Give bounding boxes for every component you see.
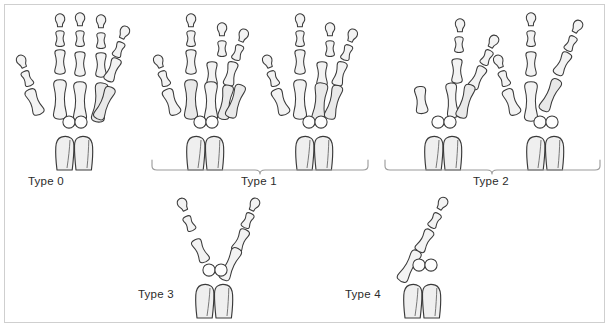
label-type-4: Type 4	[345, 288, 381, 300]
carpal-ossicles	[203, 264, 227, 276]
forearm-radius-ulna	[527, 136, 564, 170]
hand-type-2-b	[492, 13, 585, 170]
hand-type-4	[396, 195, 450, 318]
forearm-radius-ulna	[56, 136, 93, 170]
forearm-radius-ulna	[196, 284, 233, 318]
forearm-radius-ulna	[187, 136, 224, 170]
ray-middle	[73, 13, 86, 121]
ray-thumb	[261, 54, 291, 117]
label-type-3: Type 3	[138, 288, 174, 300]
ray-index	[293, 14, 306, 119]
carpal-ossicles	[432, 116, 456, 128]
hand-type-2-a	[414, 19, 501, 170]
carpal-ossicles	[413, 259, 437, 271]
ray-lateral	[492, 54, 522, 117]
ray-index	[53, 14, 66, 119]
ray-left-oblique	[176, 197, 211, 265]
ray-index	[184, 14, 197, 119]
ray-lateral	[414, 86, 428, 114]
ray-thumb	[15, 54, 45, 117]
hand-type-1-a	[152, 14, 250, 170]
hand-type-1-b	[261, 14, 359, 170]
label-type-1: Type 1	[241, 175, 277, 187]
label-type-2: Type 2	[473, 175, 509, 187]
ray-oblique	[538, 19, 585, 114]
forearm-radius-ulna	[404, 284, 441, 318]
label-type-0: Type 0	[28, 175, 64, 187]
carpal-ossicles	[534, 116, 558, 128]
figure-root: .bone{ fill:#f3f3f3; stroke:#3a3a3a; str…	[0, 0, 611, 329]
hand-type-3	[176, 197, 262, 318]
hand-classification-illustration: .bone{ fill:#f3f3f3; stroke:#3a3a3a; str…	[0, 0, 611, 329]
bracket-type-1	[152, 160, 368, 174]
ray-single-oblique	[396, 195, 450, 283]
hand-type-0	[15, 13, 131, 170]
forearm-radius-ulna	[425, 136, 462, 170]
bracket-type-2	[385, 160, 600, 174]
ray-central	[524, 13, 537, 121]
forearm-radius-ulna	[296, 136, 333, 170]
ray-thumb	[152, 54, 182, 117]
